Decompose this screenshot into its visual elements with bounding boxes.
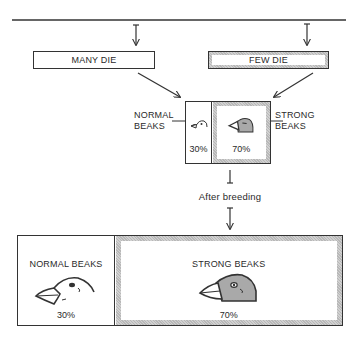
mid-strong-percent: 70% <box>213 144 271 154</box>
arrow-before-breeding <box>227 170 233 183</box>
final-strong-section: STRONG BEAKS 70% <box>116 236 343 325</box>
final-normal-beaks-label: NORMAL BEAKS <box>18 259 114 269</box>
mid-strong-section: 70% <box>213 102 271 163</box>
many-die-box: MANY DIE <box>33 51 155 69</box>
arrow-few-die-to-population <box>274 73 313 97</box>
mid-normal-beaks-label: NORMAL BEAKS <box>134 110 174 132</box>
mid-normal-section: 30% <box>186 102 212 163</box>
final-normal-section: NORMAL BEAKS 30% <box>18 236 115 325</box>
strong-bird-head-icon <box>198 273 260 309</box>
few-die-label: FEW DIE <box>209 55 328 65</box>
arrow-many-die-to-population <box>138 73 180 97</box>
normal-bird-head-icon <box>34 274 96 308</box>
final-strong-percent: 70% <box>116 310 343 320</box>
mid-population-box: 30% 70% <box>185 101 271 164</box>
final-population-box: NORMAL BEAKS 30% STRONG BEAKS 70% <box>17 235 343 326</box>
mid-normal-percent: 30% <box>186 144 211 154</box>
arrow-after-breeding <box>227 208 233 229</box>
after-breeding-label: After breeding <box>190 191 270 202</box>
many-die-label: MANY DIE <box>34 55 154 65</box>
arrow-to-many-die <box>133 25 139 45</box>
arrow-to-few-die <box>304 24 310 45</box>
final-normal-percent: 30% <box>18 310 114 320</box>
few-die-box: FEW DIE <box>208 51 329 69</box>
normal-bird-head-icon <box>189 118 209 132</box>
strong-bird-head-icon <box>227 115 255 135</box>
final-strong-beaks-label: STRONG BEAKS <box>116 259 343 269</box>
mid-strong-beaks-label: STRONG BEAKS <box>275 110 315 132</box>
